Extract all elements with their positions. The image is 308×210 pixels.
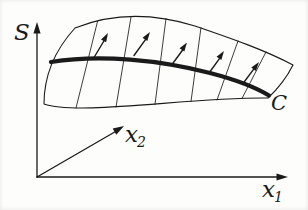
vector-arrow xyxy=(134,32,150,56)
grid-line xyxy=(191,28,201,102)
vector-arrow-shaft xyxy=(134,39,146,56)
x2-axis-arrowhead xyxy=(113,126,124,135)
vector-arrow-shaft xyxy=(243,68,255,83)
vector-arrowhead xyxy=(217,51,225,60)
vector-arrow-shaft xyxy=(209,58,220,73)
label-x1-sub: 1 xyxy=(274,189,283,205)
s-axis-arrowhead xyxy=(33,22,40,34)
vector-arrowhead xyxy=(143,32,151,41)
vector-arrowhead xyxy=(180,43,188,52)
label-s: S xyxy=(14,19,30,45)
vector-arrow xyxy=(209,51,224,73)
label-c: C xyxy=(271,91,287,115)
vector-arrow xyxy=(172,43,187,65)
s-axis xyxy=(33,22,40,177)
label-x2-sub: 2 xyxy=(136,134,146,150)
grid-line xyxy=(217,41,238,100)
x2-axis xyxy=(37,126,124,177)
x2-axis-line xyxy=(37,131,116,177)
vector-arrow xyxy=(94,33,108,58)
diagram-svg: S C x 1 x 2 xyxy=(0,0,308,210)
vector-arrow-shaft xyxy=(94,40,105,58)
vector-arrowhead xyxy=(101,33,108,42)
x1-axis xyxy=(37,173,288,180)
x1-axis-arrowhead xyxy=(277,173,289,180)
figure-canvas: S C x 1 x 2 xyxy=(0,0,308,210)
grid-line xyxy=(116,17,131,107)
vector-arrowhead xyxy=(251,62,259,71)
vector-arrow-shaft xyxy=(172,50,183,65)
grid-line xyxy=(76,22,98,109)
